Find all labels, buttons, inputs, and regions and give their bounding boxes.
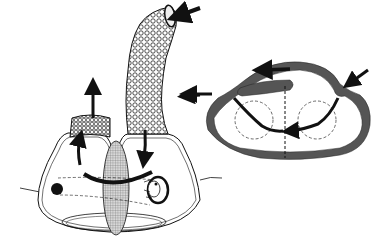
diagram-svg bbox=[0, 0, 388, 248]
section-wall bbox=[206, 62, 370, 160]
arrow-inflow-top-icon bbox=[178, 8, 200, 16]
central-hatched-organ bbox=[103, 141, 129, 235]
arrow-internal-down-icon bbox=[144, 130, 145, 160]
diagram-canvas bbox=[0, 0, 388, 248]
dashed-circle-right bbox=[298, 101, 336, 139]
arrow-section-left-curve-icon bbox=[234, 98, 283, 131]
arrow-internal-up-icon bbox=[79, 138, 81, 165]
arrow-section-top-icon bbox=[262, 69, 290, 70]
substrate-line-right bbox=[200, 177, 222, 180]
arrow-section-right-curve-icon bbox=[290, 98, 338, 131]
arrow-section-inflow-icon bbox=[350, 70, 368, 83]
cross-section bbox=[188, 62, 370, 160]
left-organism bbox=[20, 4, 222, 235]
exhalant-siphon bbox=[70, 115, 110, 137]
dark-dot bbox=[51, 183, 63, 195]
substrate-line-left bbox=[20, 188, 40, 192]
